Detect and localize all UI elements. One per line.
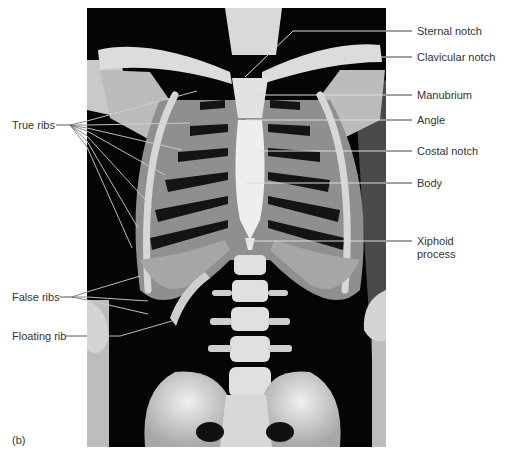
manubrium-bone — [232, 78, 268, 118]
label-true-ribs: True ribs — [12, 119, 55, 131]
label-sternal-notch: Sternal notch — [417, 25, 482, 37]
label-costal-notch: Costal notch — [417, 145, 478, 157]
label-angle: Angle — [417, 114, 445, 126]
leader-lines-left-outside — [56, 125, 87, 336]
label-manubrium: Manubrium — [417, 89, 472, 101]
skeleton-photo — [0, 0, 511, 455]
label-xiphoid-line2: process — [417, 248, 456, 260]
label-floating-rib: Floating rib — [12, 330, 66, 342]
label-false-ribs: False ribs — [12, 291, 60, 303]
label-body: Body — [417, 177, 442, 189]
label-clavicular-notch: Clavicular notch — [417, 51, 495, 63]
panel-label: (b) — [12, 434, 25, 446]
thoracic-cage-figure: Sternal notch Clavicular notch Manubrium… — [0, 0, 511, 455]
label-xiphoid-line1: Xiphoid — [417, 235, 454, 247]
true-ribs-leaders-outside — [70, 121, 87, 300]
